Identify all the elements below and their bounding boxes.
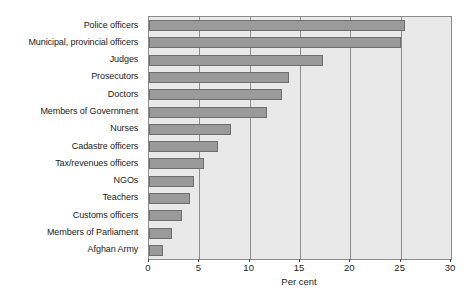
axis-tick-label: 15 bbox=[294, 262, 305, 273]
axis-tick-label: 0 bbox=[145, 262, 150, 273]
category-label: Tax/revenues officers bbox=[7, 154, 143, 171]
bar bbox=[149, 210, 182, 221]
bar bbox=[149, 89, 282, 100]
category-label: Police officers bbox=[7, 16, 143, 33]
bar bbox=[149, 72, 289, 83]
bar bbox=[149, 193, 190, 204]
category-label: Doctors bbox=[7, 85, 143, 102]
category-label: NGOs bbox=[7, 172, 143, 189]
category-label: Cadastre officers bbox=[7, 137, 143, 154]
bar-row bbox=[149, 34, 451, 51]
bar-series bbox=[149, 17, 451, 259]
category-label: Prosecutors bbox=[7, 68, 143, 85]
bar-row bbox=[149, 173, 451, 190]
bar-chart: Police officersMunicipal, provincial off… bbox=[0, 0, 472, 301]
bar-row bbox=[149, 190, 451, 207]
bar-row bbox=[149, 242, 451, 259]
category-label: Nurses bbox=[7, 120, 143, 137]
bar bbox=[149, 245, 163, 256]
category-label: Afghan Army bbox=[7, 241, 143, 258]
bar bbox=[149, 158, 204, 169]
bar-row bbox=[149, 86, 451, 103]
bar bbox=[149, 37, 401, 48]
category-label: Members of Government bbox=[7, 102, 143, 119]
category-label: Teachers bbox=[7, 189, 143, 206]
bar bbox=[149, 228, 172, 239]
bar-row bbox=[149, 155, 451, 172]
bar bbox=[149, 20, 405, 31]
bar bbox=[149, 176, 194, 187]
axis-tick-label: 20 bbox=[344, 262, 355, 273]
axis-tick-label: 10 bbox=[243, 262, 254, 273]
plot-area bbox=[148, 16, 452, 260]
bar-row bbox=[149, 207, 451, 224]
bar-row bbox=[149, 103, 451, 120]
category-label: Municipal, provincial officers bbox=[7, 33, 143, 50]
bar-row bbox=[149, 138, 451, 155]
value-axis: 051015202530 bbox=[148, 259, 450, 275]
axis-tick-label: 5 bbox=[196, 262, 201, 273]
bar bbox=[149, 55, 323, 66]
bar bbox=[149, 107, 267, 118]
bar-row bbox=[149, 17, 451, 34]
bar bbox=[149, 124, 231, 135]
category-label: Customs officers bbox=[7, 206, 143, 223]
bar bbox=[149, 141, 218, 152]
axis-tick-label: 30 bbox=[445, 262, 456, 273]
axis-tick-label: 25 bbox=[394, 262, 405, 273]
bar-row bbox=[149, 224, 451, 241]
category-label: Judges bbox=[7, 51, 143, 68]
category-label: Members of Parliament bbox=[7, 223, 143, 240]
bar-row bbox=[149, 121, 451, 138]
bar-row bbox=[149, 69, 451, 86]
x-axis-title: Per cent bbox=[148, 276, 450, 287]
category-axis: Police officersMunicipal, provincial off… bbox=[0, 16, 143, 258]
bar-row bbox=[149, 52, 451, 69]
